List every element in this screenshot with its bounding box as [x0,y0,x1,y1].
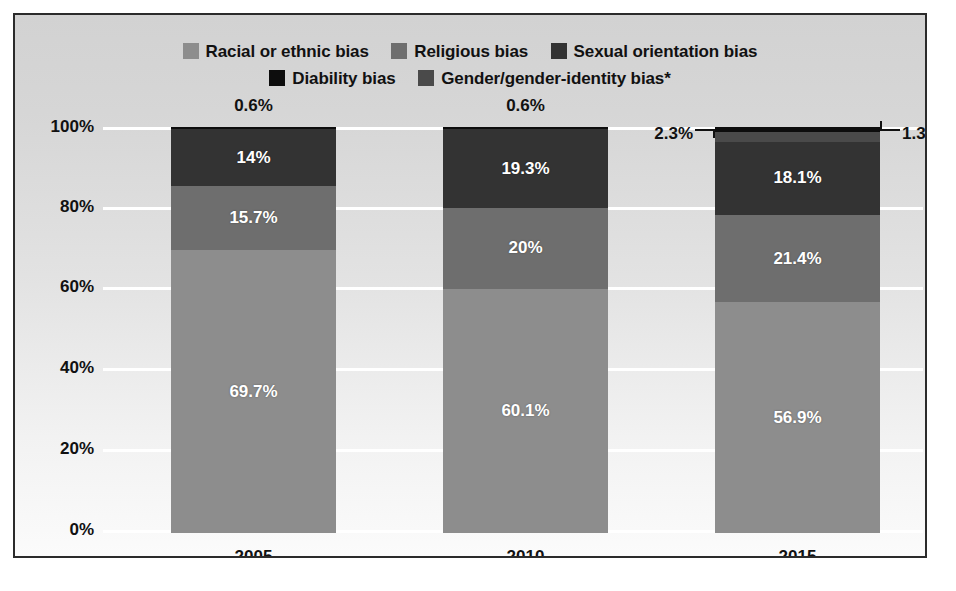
legend-item-diability-bias[interactable]: Diability bias [269,65,395,91]
legend-row-2: Diability bias Gender/gender-identity bi… [15,64,925,91]
segment-label-2005-sexual-orientation: 14% [171,148,336,168]
y-axis-tick-40: 40% [60,358,94,378]
leader-line-gender [695,129,715,131]
segment-label-2010-religious: 20% [443,238,608,258]
bar-2010[interactable]: 60.1% 20% 19.3% 0.6% 2010 [443,127,608,533]
segment-2010-disability[interactable] [443,127,608,129]
segment-2015-racial[interactable]: 56.9% [715,302,880,533]
segment-label-2010-racial: 60.1% [443,401,608,421]
segment-2015-gender[interactable] [715,132,880,141]
x-axis-tick-2005: 2005 [171,547,336,558]
legend-label-religious: Religious bias [414,39,528,64]
segment-2010-sexual-orientation[interactable]: 19.3% [443,129,608,207]
segment-label-2015-religious: 21.4% [715,249,880,269]
segment-2005-disability[interactable] [171,127,336,129]
y-axis-tick-100: 100% [51,117,94,137]
annotation-2010-disability: 0.6% [443,96,608,116]
legend-swatch-religious-icon [391,43,407,59]
legend-swatch-sexual-orientation-icon [551,43,567,59]
legend-swatch-racial-icon [183,43,199,59]
legend-label-racial: Racial or ethnic bias [206,39,369,64]
leader-line-gender-drop [713,129,715,138]
legend-item-religious-bias[interactable]: Religious bias [391,38,528,64]
annotation-2015-disability: 1.3% [902,124,927,144]
segment-2005-sexual-orientation[interactable]: 14% [171,129,336,186]
segment-2010-racial[interactable]: 60.1% [443,289,608,533]
segment-2015-disability[interactable] [715,127,880,132]
chart-legend: Racial or ethnic bias Religious bias Sex… [15,37,925,91]
annotation-2015-gender: 2.3% [654,124,693,144]
segment-2015-sexual-orientation[interactable]: 18.1% [715,142,880,215]
leader-line-disability [880,129,900,131]
y-axis-tick-60: 60% [60,277,94,297]
plot-area: 100% 80% 60% 40% 20% 0% 69.7% 15.7% 14% [103,127,923,533]
segment-2005-religious[interactable]: 15.7% [171,186,336,250]
x-axis-tick-2010: 2010 [443,547,608,558]
segment-label-2015-sexual-orientation: 18.1% [715,168,880,188]
y-axis-tick-20: 20% [60,439,94,459]
legend-item-gender-identity-bias[interactable]: Gender/gender-identity bias* [418,65,671,91]
legend-item-racial-or-ethnic-bias[interactable]: Racial or ethnic bias [183,38,369,64]
legend-label-sexual-orientation: Sexual orientation bias [574,39,758,64]
legend-label-disability: Diability bias [292,66,395,91]
bar-2015[interactable]: 56.9% 21.4% 18.1% 2.3% 1.3% 2015 [715,127,880,533]
y-axis-tick-0: 0% [69,520,94,540]
segment-label-2015-racial: 56.9% [715,408,880,428]
segment-2005-racial[interactable]: 69.7% [171,250,336,533]
legend-swatch-disability-icon [269,70,285,86]
bar-2005[interactable]: 69.7% 15.7% 14% 0.6% 2005 [171,127,336,533]
legend-row-1: Racial or ethnic bias Religious bias Sex… [15,37,925,64]
segment-label-2005-racial: 69.7% [171,382,336,402]
chart-figure: Racial or ethnic bias Religious bias Sex… [13,13,927,558]
leader-line-disability-drop [880,121,882,130]
legend-swatch-gender-icon [418,70,434,86]
annotation-2005-disability: 0.6% [171,96,336,116]
legend-item-sexual-orientation-bias[interactable]: Sexual orientation bias [551,38,758,64]
y-axis-tick-80: 80% [60,197,94,217]
x-axis-tick-2015: 2015 [715,547,880,558]
segment-2010-religious[interactable]: 20% [443,208,608,289]
segment-label-2005-religious: 15.7% [171,208,336,228]
legend-label-gender: Gender/gender-identity bias* [441,66,671,91]
segment-2015-religious[interactable]: 21.4% [715,215,880,302]
segment-label-2010-sexual-orientation: 19.3% [443,159,608,179]
